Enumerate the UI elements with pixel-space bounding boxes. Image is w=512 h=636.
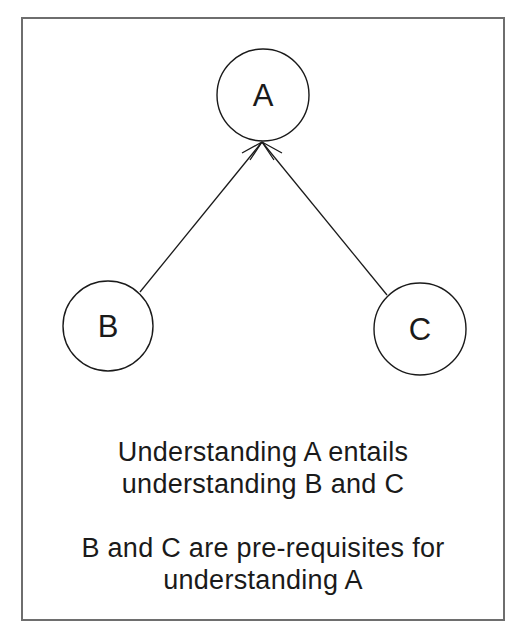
caption-prerequisites-line-2: understanding A [21,564,505,596]
caption-prerequisites-line-1: B and C are pre-requisites for [21,532,505,564]
caption-prerequisites: B and C are pre-requisites for understan… [21,532,505,596]
node-c: C [374,283,466,375]
arrowhead-icon [242,142,282,160]
node-c-label: C [409,312,431,347]
node-b: B [63,281,153,371]
edge-b-to-a [140,142,262,292]
node-b-label: B [98,309,119,344]
caption-entails-line-2: understanding B and C [21,468,505,500]
caption-entails-line-1: Understanding A entails [21,436,505,468]
edge-c-to-a [262,142,387,295]
node-a-label: A [253,78,274,113]
node-a: A [217,49,309,141]
caption-entails: Understanding A entails understanding B … [21,436,505,500]
